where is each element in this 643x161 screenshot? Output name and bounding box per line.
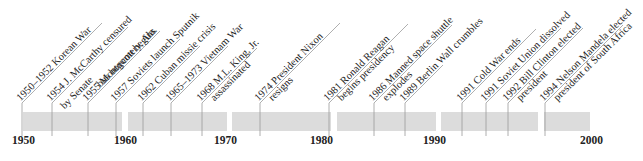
timeline: 1950 1960 1970 1980 1990 2000 1950–1952 … [0, 0, 643, 161]
